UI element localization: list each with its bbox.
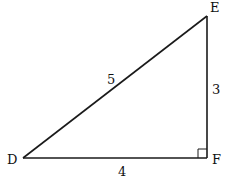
side-label-ef: 3 <box>212 82 220 97</box>
vertex-label-e: E <box>210 0 220 15</box>
triangle-diagram: E F D 5 3 4 <box>0 0 232 182</box>
side-label-df: 4 <box>118 164 126 179</box>
vertex-label-f: F <box>212 152 221 167</box>
right-angle-marker <box>198 149 207 158</box>
side-label-de: 5 <box>107 72 115 87</box>
vertex-label-d: D <box>7 152 17 167</box>
triangle-def <box>23 16 207 158</box>
side-de <box>23 16 207 158</box>
